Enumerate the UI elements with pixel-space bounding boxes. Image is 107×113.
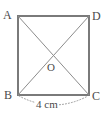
diagonals bbox=[18, 16, 89, 95]
dimension-label: 4 cm bbox=[35, 99, 59, 110]
vertex-label-d: D bbox=[92, 10, 101, 22]
vertex-label-c: C bbox=[92, 90, 100, 102]
geometry-figure: A D B C O 4 cm bbox=[0, 0, 107, 113]
center-point-label-o: O bbox=[47, 62, 55, 73]
vertex-label-a: A bbox=[3, 9, 12, 21]
figure-canvas bbox=[0, 0, 107, 113]
vertex-label-b: B bbox=[4, 89, 12, 101]
